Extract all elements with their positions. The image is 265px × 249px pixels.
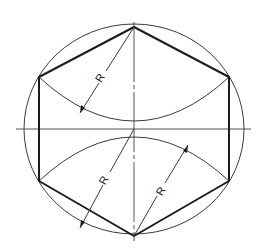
radius-dimension-lower-right: R [134,145,188,236]
radius-label: R [92,71,106,84]
hexagon-construction-diagram: R R R [0,0,265,249]
radius-dimension-upper: R [80,27,134,113]
radius-label: R [153,185,167,198]
radius-dimension-lower-left: R [80,129,134,228]
radius-label: R [96,174,110,187]
